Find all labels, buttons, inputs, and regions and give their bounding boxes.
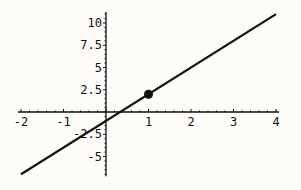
point-marker: [144, 90, 153, 99]
x-tick-label: -2: [14, 115, 28, 129]
x-tick-label: 4: [272, 115, 279, 129]
x-tick-label: 2: [187, 115, 194, 129]
y-tick-label: 7.5: [80, 38, 102, 52]
x-tick-label: 1: [145, 115, 152, 129]
y-tick-label: 2.5: [80, 83, 102, 97]
y-tick-label: 5: [95, 61, 102, 75]
chart: -2-11234107.552.5-2.5-5: [0, 0, 301, 190]
y-tick-label: -5: [88, 150, 102, 164]
x-tick-label: -1: [56, 115, 70, 129]
y-tick-label: 10: [88, 16, 102, 30]
x-tick-label: 3: [230, 115, 237, 129]
data-point: [144, 90, 153, 99]
